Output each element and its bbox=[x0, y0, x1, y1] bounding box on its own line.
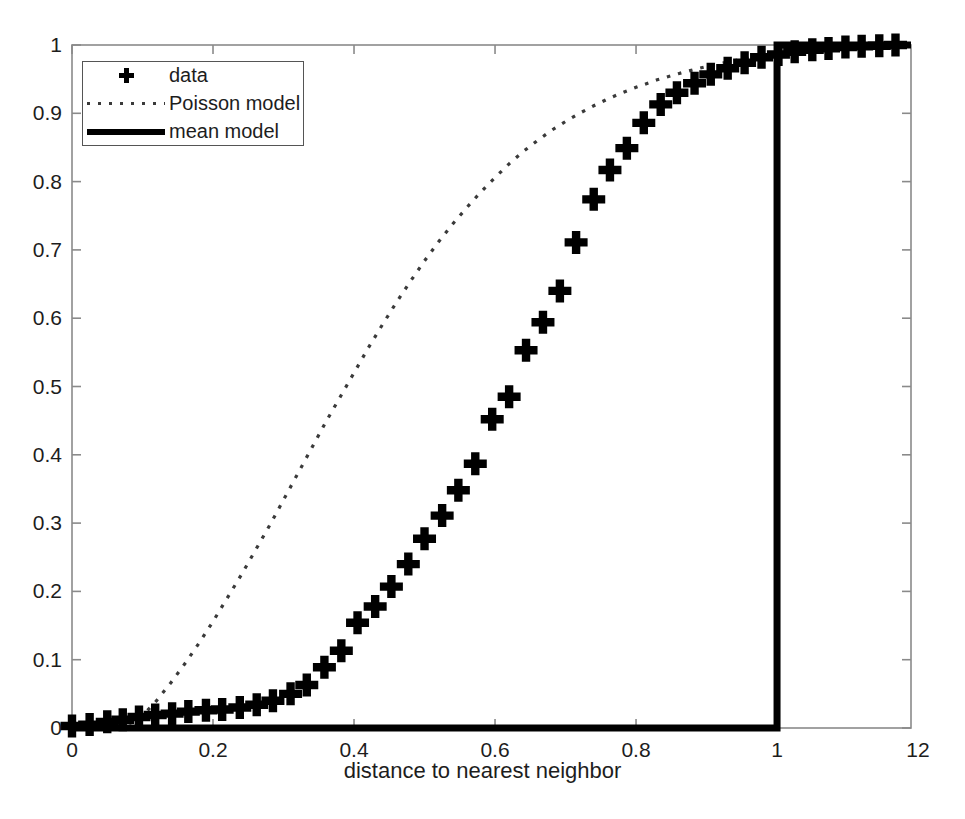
data-point-marker bbox=[346, 611, 369, 634]
y-tick-label: 0.5 bbox=[0, 375, 62, 399]
data-point-marker bbox=[364, 595, 387, 618]
data-point-marker bbox=[498, 385, 521, 408]
data-point-marker bbox=[582, 188, 605, 211]
data-point-marker bbox=[447, 479, 470, 502]
data-point-marker bbox=[884, 34, 907, 57]
legend-label-poisson-model: Poisson model bbox=[169, 92, 300, 115]
series-poisson-model bbox=[72, 45, 911, 728]
data-point-marker bbox=[548, 279, 571, 302]
solid-line-icon bbox=[83, 129, 169, 135]
legend-item-mean-model: mean model bbox=[83, 118, 303, 145]
legend-item-data: data bbox=[83, 62, 303, 89]
y-tick-label: 0.3 bbox=[0, 511, 62, 535]
data-point-marker bbox=[632, 111, 655, 134]
data-point-marker bbox=[615, 137, 638, 160]
data-point-marker bbox=[481, 408, 504, 431]
legend-label-mean-model: mean model bbox=[169, 120, 279, 143]
axes-frame bbox=[72, 45, 911, 728]
y-tick-label: 1 bbox=[0, 33, 62, 57]
y-tick-label: 0.8 bbox=[0, 170, 62, 194]
data-point-marker bbox=[413, 527, 436, 550]
legend: data Poisson model mean model bbox=[82, 61, 304, 146]
data-point-marker bbox=[380, 575, 403, 598]
y-tick-label: 0.6 bbox=[0, 306, 62, 330]
y-tick-label: 0.9 bbox=[0, 101, 62, 125]
legend-item-poisson-model: Poisson model bbox=[83, 90, 303, 117]
data-point-marker bbox=[397, 553, 420, 576]
data-point-marker bbox=[330, 639, 353, 662]
data-point-marker bbox=[313, 656, 336, 679]
dotted-line-icon bbox=[83, 102, 169, 105]
data-point-marker bbox=[531, 311, 554, 334]
series-mean-model bbox=[72, 45, 911, 728]
figure-container: 00.10.20.30.40.50.60.70.80.91 00.20.40.6… bbox=[0, 0, 965, 819]
data-point-marker bbox=[464, 452, 487, 475]
axis-ticks bbox=[72, 45, 911, 728]
y-tick-label: 0 bbox=[0, 716, 62, 740]
y-tick-label: 0.7 bbox=[0, 238, 62, 262]
y-tick-label: 0.2 bbox=[0, 579, 62, 603]
legend-label-data: data bbox=[169, 64, 208, 87]
plus-marker-icon bbox=[83, 68, 169, 83]
x-axis-title: distance to nearest neighbor bbox=[0, 758, 965, 784]
y-tick-label: 0.1 bbox=[0, 648, 62, 672]
data-point-marker bbox=[565, 231, 588, 254]
data-point-marker bbox=[515, 339, 538, 362]
y-tick-label: 0.4 bbox=[0, 443, 62, 467]
data-point-marker bbox=[598, 158, 621, 181]
data-point-marker bbox=[431, 504, 454, 527]
